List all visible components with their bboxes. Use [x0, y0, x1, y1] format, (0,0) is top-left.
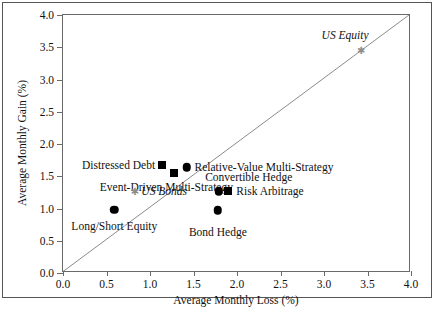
y-tick-mark: [57, 112, 63, 113]
y-tick-mark: [57, 144, 63, 145]
data-point-label: Convertible Hedge: [205, 171, 292, 183]
x-tick-mark: [107, 271, 108, 276]
data-point-marker: ✱: [357, 46, 364, 53]
data-point-label: Long/Short Equity: [71, 220, 157, 232]
x-tick-label: 3.0: [317, 278, 331, 290]
y-tick-mark: [57, 241, 63, 242]
y-tick-mark: [57, 47, 63, 48]
data-point-marker: [170, 169, 178, 177]
y-tick-label: 3.0: [40, 74, 54, 86]
y-tick-label: 1.0: [40, 203, 54, 215]
scan-caption-fragment: [4, 302, 432, 312]
y-tick-mark: [57, 176, 63, 177]
x-tick-mark: [237, 271, 238, 276]
x-tick-mark: [63, 271, 64, 276]
data-point-label: Risk Arbitrage: [236, 185, 303, 197]
y-tick-mark: [57, 80, 63, 81]
x-tick-mark: [368, 271, 369, 276]
data-point-marker: [158, 161, 166, 169]
x-tick-label: 1.5: [186, 278, 200, 290]
data-point-label: US Equity: [322, 29, 369, 41]
x-tick-mark: [194, 271, 195, 276]
x-tick-label: 0.0: [56, 278, 70, 290]
data-point-marker: [182, 163, 191, 172]
data-point-label: US Bonds: [141, 185, 187, 197]
y-tick-label: 3.5: [40, 41, 54, 53]
x-tick-mark: [411, 271, 412, 276]
x-tick-label: 2.0: [230, 278, 244, 290]
y-tick-mark: [57, 209, 63, 210]
x-tick-label: 4.0: [404, 278, 418, 290]
x-tick-mark: [150, 271, 151, 276]
y-tick-mark: [57, 15, 63, 16]
y-tick-label: 0.5: [40, 235, 54, 247]
data-point-label: Bond Hedge: [189, 226, 247, 238]
y-tick-label: 2.0: [40, 138, 54, 150]
x-tick-label: 2.5: [273, 278, 287, 290]
data-point-marker: [224, 187, 232, 195]
y-tick-label: 0.0: [40, 267, 54, 279]
y-tick-label: 4.0: [40, 9, 54, 21]
x-tick-mark: [324, 271, 325, 276]
data-point-label: Distressed Debt: [82, 159, 155, 171]
data-point-marker: [214, 206, 223, 215]
data-point-marker: ✱: [131, 188, 138, 195]
data-point-marker: [214, 187, 223, 196]
y-tick-label: 2.5: [40, 106, 54, 118]
plot-area: 0.00.51.01.52.02.53.03.54.0 0.00.51.01.5…: [62, 14, 410, 272]
y-axis-title: Average Monthly Gain (%): [16, 80, 28, 206]
data-point-marker: [110, 206, 119, 215]
x-tick-label: 1.0: [143, 278, 157, 290]
x-tick-label: 0.5: [99, 278, 113, 290]
x-tick-label: 3.5: [360, 278, 374, 290]
x-tick-mark: [281, 271, 282, 276]
y-tick-label: 1.5: [40, 170, 54, 182]
